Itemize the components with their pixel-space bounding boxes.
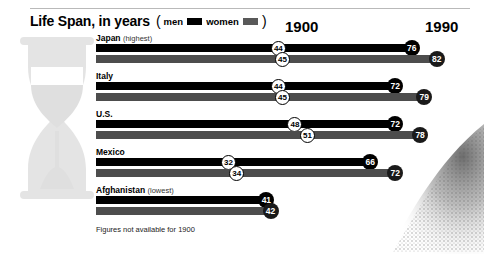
country-name: Italy [96, 71, 113, 81]
row-label-mexico: Mexico [96, 147, 125, 157]
country-note: (highest) [123, 34, 152, 43]
row-label-u-s: U.S. [96, 109, 113, 119]
country-name: Japan [96, 33, 121, 43]
value-bubble-1990-men: 76 [404, 40, 420, 56]
chart-rows: Japan (highest)44764582Italy44724579U.S.… [0, 33, 484, 223]
chart-row: Mexico32663472 [0, 147, 484, 185]
chart-header: Life Span, in years ( men women ) [30, 13, 267, 29]
row-label-italy: Italy [96, 71, 113, 81]
bar-women [96, 207, 271, 215]
bar-men [96, 196, 266, 204]
chart-row: Japan (highest)44764582 [0, 33, 484, 71]
value-bubble-1900-women: 51 [300, 128, 315, 143]
footnote: Figures not available for 1900 [96, 225, 195, 234]
value-bubble-1900-women: 45 [275, 52, 290, 67]
country-name: Mexico [96, 147, 125, 157]
row-label-japan: Japan (highest) [96, 33, 152, 43]
bar-women [96, 131, 420, 139]
value-bubble-1900-men: 48 [287, 117, 302, 132]
bar-men [96, 44, 412, 52]
chart-row: Afghanistan (lowest)4142 [0, 185, 484, 223]
chart-row: Italy44724579 [0, 71, 484, 109]
top-divider [30, 8, 470, 9]
bar-men [96, 82, 395, 90]
page-title: Life Span, in years [30, 13, 150, 29]
value-bubble-1990-women: 78 [412, 127, 428, 143]
legend-label-men: men [164, 16, 184, 27]
value-bubble-1900-women: 45 [275, 90, 290, 105]
value-bubble-1990-women: 42 [263, 203, 279, 219]
legend: ( men women ) [156, 13, 267, 29]
row-label-afghanistan: Afghanistan (lowest) [96, 185, 174, 195]
bar-women [96, 93, 424, 101]
legend-close-paren: ) [262, 13, 267, 29]
value-bubble-1990-men: 72 [387, 78, 403, 94]
chart-row: U.S.48725178 [0, 109, 484, 147]
country-note: (lowest) [148, 186, 174, 195]
value-bubble-1990-women: 79 [416, 89, 432, 105]
legend-label-women: women [206, 16, 239, 27]
value-bubble-1900-women: 34 [229, 166, 244, 181]
legend-open-paren: ( [156, 13, 161, 29]
bar-men [96, 120, 395, 128]
country-name: U.S. [96, 109, 113, 119]
country-name: Afghanistan [96, 185, 145, 195]
life-span-chart: Life Span, in years ( men women ) 1900 1… [0, 0, 484, 254]
value-bubble-1990-men: 72 [387, 116, 403, 132]
value-bubble-1990-women: 72 [387, 165, 403, 181]
bar-women [96, 169, 395, 177]
legend-swatch-women [243, 18, 258, 25]
value-bubble-1990-women: 82 [429, 51, 445, 67]
value-bubble-1990-men: 66 [362, 154, 378, 170]
bar-women [96, 55, 437, 63]
legend-swatch-men [187, 18, 202, 25]
